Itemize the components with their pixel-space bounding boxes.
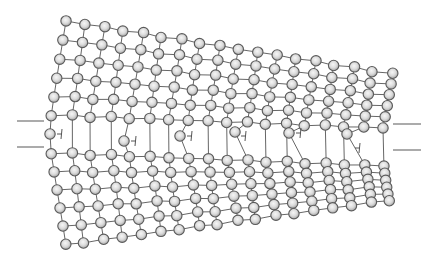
atom xyxy=(206,180,216,190)
atom xyxy=(58,35,68,45)
atom xyxy=(145,151,155,161)
atom xyxy=(85,112,95,122)
atom xyxy=(320,120,330,130)
atom xyxy=(124,152,134,162)
atom xyxy=(307,196,317,206)
atom xyxy=(222,155,232,165)
atom xyxy=(169,82,179,92)
atom xyxy=(75,55,85,65)
atom xyxy=(208,193,218,203)
atom xyxy=(87,167,97,177)
atom xyxy=(262,105,272,115)
atom xyxy=(363,89,373,99)
atom xyxy=(362,100,372,110)
atom xyxy=(126,167,136,177)
atom xyxy=(194,220,204,230)
atom xyxy=(113,199,123,209)
atom xyxy=(130,79,140,89)
atom xyxy=(384,90,394,100)
atom xyxy=(342,129,352,139)
atom xyxy=(221,117,231,127)
atom xyxy=(127,96,137,106)
atom xyxy=(215,40,225,50)
atom xyxy=(58,221,68,231)
atom xyxy=(249,202,259,212)
atom xyxy=(282,156,292,166)
atom xyxy=(360,111,370,121)
atom xyxy=(88,94,98,104)
atom xyxy=(93,201,103,211)
atom xyxy=(246,178,256,188)
atom xyxy=(163,115,173,125)
atom xyxy=(281,118,291,128)
atom xyxy=(224,103,234,113)
atom xyxy=(311,56,321,66)
atom xyxy=(134,214,144,224)
atom xyxy=(231,203,241,213)
atom xyxy=(133,62,143,72)
atom xyxy=(309,205,319,215)
atoms xyxy=(45,16,398,250)
atom xyxy=(97,40,107,50)
atom xyxy=(283,105,293,115)
atom xyxy=(263,168,273,178)
atom xyxy=(194,38,204,48)
edge-dislocation-icon xyxy=(187,131,192,141)
atom xyxy=(94,58,104,68)
atom xyxy=(308,69,318,79)
atom xyxy=(343,98,353,108)
atom xyxy=(303,178,313,188)
atom xyxy=(249,74,259,84)
atom xyxy=(380,112,390,122)
atom xyxy=(267,78,277,88)
atom xyxy=(224,167,234,177)
atom xyxy=(106,149,116,159)
atom xyxy=(76,220,86,230)
atom xyxy=(290,54,300,64)
atom xyxy=(322,108,332,118)
atom xyxy=(265,92,275,102)
atom xyxy=(154,211,164,221)
atom xyxy=(287,79,297,89)
atom xyxy=(129,183,139,193)
atom xyxy=(55,203,65,213)
atom xyxy=(151,65,161,75)
atom xyxy=(289,67,299,77)
atom xyxy=(111,77,121,87)
atom xyxy=(115,43,125,53)
atom xyxy=(271,210,281,220)
atom xyxy=(365,78,375,88)
atom xyxy=(359,122,369,132)
atom xyxy=(78,238,88,248)
atom xyxy=(177,34,187,44)
atom xyxy=(289,208,299,218)
atom xyxy=(269,199,279,209)
atom xyxy=(111,182,121,192)
atom xyxy=(251,61,261,71)
atom xyxy=(46,149,56,159)
atom xyxy=(272,50,282,60)
atom xyxy=(253,47,263,57)
atom xyxy=(90,184,100,194)
atom xyxy=(212,220,222,230)
atom xyxy=(115,215,125,225)
atom xyxy=(119,136,129,146)
atom xyxy=(46,111,56,121)
atom xyxy=(247,190,257,200)
atom xyxy=(67,110,77,120)
atom xyxy=(226,179,236,189)
atom xyxy=(203,154,213,164)
atom xyxy=(147,166,157,176)
atom xyxy=(233,44,243,54)
atom xyxy=(187,85,197,95)
atom xyxy=(210,207,220,217)
atom xyxy=(106,111,116,121)
atom xyxy=(265,178,275,188)
atom xyxy=(156,226,166,236)
atom xyxy=(233,215,243,225)
atom xyxy=(188,180,198,190)
atom xyxy=(108,94,118,104)
atom xyxy=(77,37,87,47)
atom xyxy=(164,153,174,163)
atom xyxy=(304,95,314,105)
